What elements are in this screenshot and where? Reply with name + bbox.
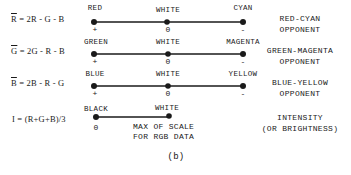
note-line: FOR RGB DATA xyxy=(133,132,194,142)
sign-plus: + xyxy=(93,25,98,34)
label-white: WHITE xyxy=(156,6,180,14)
description-line: INTENSITY xyxy=(262,112,339,123)
note-line: MAX OF SCALE xyxy=(133,122,194,132)
description-line: OPPONENT xyxy=(272,88,328,99)
description-line: (OR BRIGHTNESS) xyxy=(262,123,339,134)
description-line: OPPONENT xyxy=(280,24,321,35)
sign-zero: 0 xyxy=(94,123,99,132)
note-max-of-scale: MAX OF SCALE FOR RGB DATA xyxy=(133,122,194,142)
label-white: WHITE xyxy=(156,70,180,78)
label-white: WHITE xyxy=(156,38,180,46)
sign-zero: 0 xyxy=(166,57,171,66)
label-red: RED xyxy=(88,4,102,12)
label-white: WHITE xyxy=(155,104,179,112)
equation-rhs: = 2B - R - G xyxy=(17,78,65,88)
description-green-magenta: GREEN-MAGENTA OPPONENT xyxy=(267,45,333,67)
label-cyan: CYAN xyxy=(233,4,252,12)
sign-minus: - xyxy=(241,57,246,66)
description-line: GREEN-MAGENTA xyxy=(267,45,333,56)
sign-zero: 0 xyxy=(166,25,171,34)
sign-zero: 0 xyxy=(166,89,171,98)
label-magenta: MAGENTA xyxy=(226,38,260,46)
equation-rhs: = 2G - R - B xyxy=(17,46,65,56)
equation-rhs: I = (R+G+B)/3 xyxy=(12,114,66,124)
label-black: BLACK xyxy=(84,105,108,113)
sign-plus: + xyxy=(93,57,98,66)
description-blue-yellow: BLUE-YELLOW OPPONENT xyxy=(272,77,328,99)
description-line: OPPONENT xyxy=(267,56,333,67)
sign-minus: - xyxy=(241,89,246,98)
sign-plus: + xyxy=(93,89,98,98)
equation-red-cyan: R = 2R - G - B xyxy=(11,14,64,24)
equation-rhs: = 2R - G - B xyxy=(17,14,65,24)
label-green: GREEN xyxy=(84,38,108,46)
description-line: RED-CYAN xyxy=(280,13,321,24)
equation-blue-yellow: B = 2B - R - G xyxy=(11,78,64,88)
description-line: BLUE-YELLOW xyxy=(272,77,328,88)
equation-green-magenta: G = 2G - R - B xyxy=(11,46,65,56)
label-yellow: YELLOW xyxy=(229,70,258,78)
description-red-cyan: RED-CYAN OPPONENT xyxy=(280,13,321,35)
description-intensity: INTENSITY (OR BRIGHTNESS) xyxy=(262,112,339,134)
equation-intensity: I = (R+G+B)/3 xyxy=(12,114,66,124)
figure-caption: (b) xyxy=(167,152,184,162)
label-blue: BLUE xyxy=(85,70,104,78)
sign-minus: - xyxy=(241,25,246,34)
